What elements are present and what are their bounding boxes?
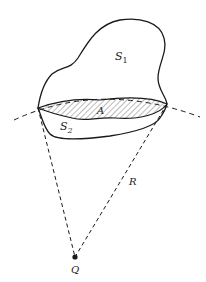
radius-line-right	[75, 104, 167, 257]
label-s2: S2	[60, 120, 73, 135]
label-r: R	[128, 176, 137, 187]
point-q	[72, 254, 77, 259]
diagram-canvas: S1 S2 A R Q	[0, 0, 206, 282]
label-q: Q	[71, 264, 79, 275]
label-s1: S1	[115, 50, 128, 65]
label-a: A	[96, 105, 104, 116]
surface-s1	[38, 19, 167, 108]
